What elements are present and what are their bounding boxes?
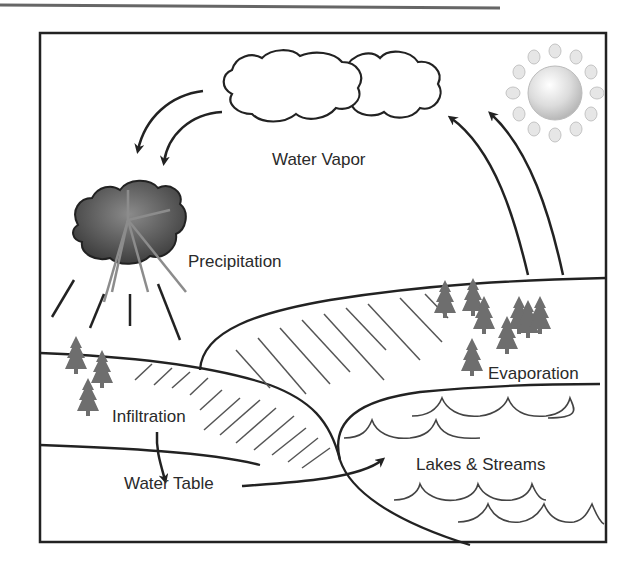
lakes-streams-label: Lakes & Streams: [416, 455, 545, 475]
soil-hatching: [135, 294, 448, 468]
water-table-label: Water Table: [124, 474, 214, 494]
infiltration-arrow: [157, 432, 165, 480]
infiltration-label: Infiltration: [112, 407, 186, 427]
water-vapor-label: Water Vapor: [272, 150, 366, 170]
water-cycle-diagram: Water Vapor Precipitation Evaporation In…: [0, 0, 640, 576]
pine-tree-icon: [65, 278, 551, 416]
precipitation-label: Precipitation: [188, 252, 282, 272]
cloud-icon: [224, 50, 441, 121]
water-table-arrow: [242, 460, 382, 486]
header-rule: [0, 5, 500, 8]
rain-cloud-icon: [52, 181, 186, 340]
evaporation-arrows: [451, 114, 563, 275]
evaporation-label: Evaporation: [488, 364, 579, 384]
precipitation-arrows: [138, 91, 222, 162]
sun-icon: [506, 44, 604, 142]
